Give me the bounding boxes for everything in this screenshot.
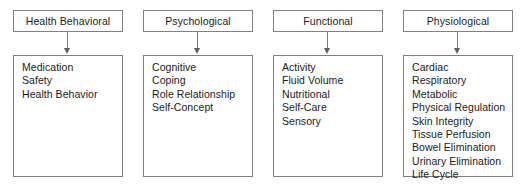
list-item: Tissue Perfusion [412, 128, 512, 141]
arrow-down-icon [64, 48, 70, 54]
list-item: Health Behavior [22, 88, 122, 101]
category-items-box[interactable]: Cognitive Coping Role Relationship Self-… [143, 55, 253, 177]
list-item: Role Relationship [152, 88, 252, 101]
arrow-down-icon [194, 48, 200, 54]
category-items-box[interactable]: Activity Fluid Volume Nutritional Self-C… [273, 55, 383, 177]
list-item: Urinary Elimination [412, 155, 512, 168]
diagram-canvas: Health Behavioral Medication Safety Heal… [0, 0, 525, 194]
category-header-label: Psychological [165, 15, 231, 27]
category-header-box[interactable]: Functional [273, 10, 383, 32]
list-item: Sensory [282, 115, 382, 128]
list-item: Self-Concept [152, 101, 252, 114]
diagram-column-physiological: Physiological Cardiac Respiratory Metabo… [403, 0, 513, 194]
category-header-label: Health Behavioral [26, 15, 111, 27]
arrow-down-icon [324, 48, 330, 54]
list-item: Fluid Volume [282, 74, 382, 87]
list-item: Skin Integrity [412, 115, 512, 128]
list-item: Cardiac [412, 61, 512, 74]
category-items-box[interactable]: Medication Safety Health Behavior [13, 55, 123, 177]
list-item: Safety [22, 74, 122, 87]
diagram-column-psychological: Psychological Cognitive Coping Role Rela… [143, 0, 253, 194]
list-item: Metabolic [412, 88, 512, 101]
list-item: Cognitive [152, 61, 252, 74]
list-item: Bowel Elimination [412, 141, 512, 154]
list-item: Coping [152, 74, 252, 87]
diagram-column-health-behavioral: Health Behavioral Medication Safety Heal… [13, 0, 123, 194]
list-item: Life Cycle [412, 168, 512, 181]
category-header-label: Physiological [427, 15, 490, 27]
category-items-box[interactable]: Cardiac Respiratory Metabolic Physical R… [403, 55, 513, 177]
category-header-box[interactable]: Physiological [403, 10, 513, 32]
list-item: Self-Care [282, 101, 382, 114]
arrow-down-icon [454, 48, 460, 54]
category-header-box[interactable]: Psychological [143, 10, 253, 32]
list-item: Nutritional [282, 88, 382, 101]
category-header-box[interactable]: Health Behavioral [13, 10, 123, 32]
list-item: Respiratory [412, 74, 512, 87]
diagram-column-functional: Functional Activity Fluid Volume Nutriti… [273, 0, 383, 194]
list-item: Physical Regulation [412, 101, 512, 114]
category-header-label: Functional [303, 15, 352, 27]
list-item: Medication [22, 61, 122, 74]
list-item: Activity [282, 61, 382, 74]
